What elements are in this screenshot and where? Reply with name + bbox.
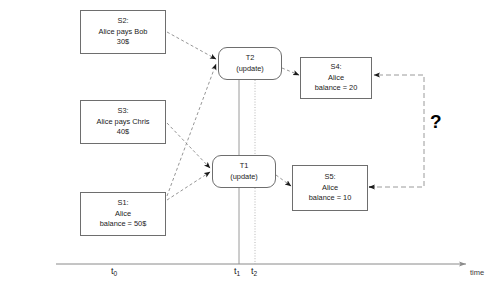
node-line: balance = 10 — [309, 193, 352, 204]
node-line: S3: — [117, 106, 128, 117]
diagram-edges-layer — [0, 0, 503, 295]
node-line: (update) — [230, 172, 258, 183]
node-line: Alice — [115, 209, 131, 220]
node-line: S2: — [117, 16, 128, 27]
axis-tick-t0: t0 — [111, 266, 117, 276]
node-line: Alice pays Chris — [97, 117, 150, 128]
axis-tick-t2: t2 — [251, 266, 257, 276]
edge-s2-to-t2 — [167, 32, 216, 59]
node-t2: T2(update) — [218, 47, 282, 80]
node-line: S1: — [117, 198, 128, 209]
tick-subscript: 0 — [114, 270, 118, 277]
node-line: balance = 20 — [315, 83, 358, 94]
tick-subscript: 2 — [254, 270, 258, 277]
node-s3: S3:Alice pays Chris40$ — [80, 100, 166, 144]
conflict-bracket — [369, 75, 424, 187]
node-line: S4: — [330, 62, 341, 73]
edge-t2-to-s4 — [282, 68, 299, 75]
edge-s1-to-t2 — [167, 64, 216, 196]
edge-s1-to-t1 — [167, 172, 210, 200]
node-line: T1 — [240, 161, 249, 172]
node-line: T2 — [246, 53, 255, 64]
node-line: balance = 50$ — [100, 219, 147, 230]
node-s5: S5:Alicebalance = 10 — [292, 165, 368, 211]
node-s1: S1:Alicebalance = 50$ — [80, 192, 166, 236]
edge-s3-to-t1 — [167, 123, 210, 168]
node-line: Alice pays Bob — [99, 27, 148, 38]
node-line: Alice — [328, 73, 344, 84]
node-line: Alice — [322, 183, 338, 194]
edge-t1-to-s5 — [276, 175, 291, 186]
node-line: S5: — [324, 172, 335, 183]
tick-subscript: 1 — [237, 270, 241, 277]
node-s4: S4:Alicebalance = 20 — [300, 57, 372, 99]
time-axis-label: time — [470, 268, 484, 277]
diagram-canvas: S2:Alice pays Bob30$S3:Alice pays Chris4… — [0, 0, 503, 295]
axis-tick-t1: t1 — [234, 266, 240, 276]
node-line: (update) — [236, 64, 264, 75]
node-s2: S2:Alice pays Bob30$ — [80, 10, 166, 54]
conflict-bracket-path — [369, 75, 424, 187]
question-mark-label: ? — [430, 112, 442, 131]
node-t1: T1(update) — [212, 155, 276, 188]
node-line: 30$ — [117, 37, 129, 48]
node-line: 40$ — [117, 127, 129, 138]
